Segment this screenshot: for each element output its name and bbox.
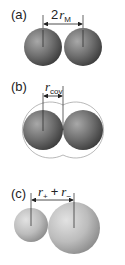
panel-b: (b) rcov (11, 79, 104, 158)
panel-label-a: (a) (11, 7, 27, 22)
panel-label-b: (b) (11, 79, 27, 94)
measure-2rm: 2rM (51, 7, 71, 24)
panel-a: (a) 2rM (11, 7, 102, 66)
measure-rcov: rcov (45, 79, 63, 96)
atomic-radii-diagram: (a) 2rM (b) rcov (c) r++r− (0, 0, 125, 265)
panel-label-c: (c) (11, 186, 26, 201)
panel-c: (c) r++r− (11, 184, 100, 254)
covalent-atom-right (63, 110, 103, 150)
measure-ionic-sum: r++r− (38, 184, 71, 201)
